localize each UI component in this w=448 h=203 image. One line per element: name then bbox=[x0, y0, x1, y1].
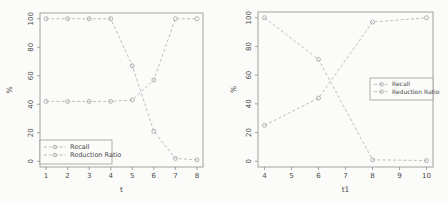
left-chart-panel: 12345678020406080100t%RecallReduction Ra… bbox=[0, 0, 224, 203]
left-chart-svg: 12345678020406080100t%RecallReduction Ra… bbox=[0, 0, 224, 203]
x-tick-label: 5 bbox=[130, 172, 134, 180]
series-marker bbox=[425, 16, 429, 20]
x-tick-label: 7 bbox=[173, 172, 177, 180]
y-tick-label: 20 bbox=[245, 128, 253, 137]
series-marker bbox=[195, 17, 199, 21]
right-chart-panel: 45678910020406080100t1%RecallReduction R… bbox=[224, 0, 448, 203]
series-marker bbox=[316, 96, 320, 100]
y-tick-label: 0 bbox=[27, 159, 35, 163]
y-tick-label: 60 bbox=[245, 71, 253, 80]
y-tick-label: 60 bbox=[27, 71, 35, 80]
y-tick-label: 100 bbox=[245, 11, 253, 24]
x-tick-label: 4 bbox=[108, 172, 113, 180]
legend-label: Reduction Ratio bbox=[70, 151, 121, 159]
y-tick-label: 40 bbox=[27, 100, 35, 109]
series-line bbox=[46, 19, 197, 160]
figure-two-line-plots: 12345678020406080100t%RecallReduction Ra… bbox=[0, 0, 448, 203]
x-tick-label: 8 bbox=[370, 172, 374, 180]
x-axis-title: t bbox=[120, 185, 123, 194]
x-tick-label: 8 bbox=[195, 172, 199, 180]
legend-label: Recall bbox=[392, 80, 410, 87]
series-line bbox=[46, 19, 197, 102]
x-tick-label: 5 bbox=[289, 172, 293, 180]
legend-label: Recall bbox=[70, 143, 90, 151]
x-axis-title: t1 bbox=[342, 185, 350, 194]
y-tick-label: 0 bbox=[245, 159, 253, 163]
x-tick-label: 2 bbox=[65, 172, 69, 180]
x-tick-label: 1 bbox=[44, 172, 48, 180]
y-tick-label: 20 bbox=[27, 128, 35, 137]
y-tick-label: 40 bbox=[245, 99, 253, 108]
series-marker bbox=[262, 123, 266, 127]
y-axis-title: % bbox=[229, 86, 238, 93]
y-tick-label: 80 bbox=[245, 42, 253, 51]
y-tick-label: 100 bbox=[27, 12, 35, 25]
x-tick-label: 7 bbox=[343, 172, 347, 180]
x-tick-label: 9 bbox=[397, 172, 401, 180]
x-tick-label: 6 bbox=[316, 172, 321, 180]
x-tick-label: 4 bbox=[262, 172, 267, 180]
series-marker bbox=[262, 16, 266, 20]
x-tick-label: 6 bbox=[152, 172, 157, 180]
x-tick-label: 10 bbox=[422, 172, 431, 180]
right-chart-svg: 45678910020406080100t1%RecallReduction R… bbox=[224, 0, 448, 203]
y-tick-label: 80 bbox=[27, 43, 35, 52]
y-axis-title: % bbox=[5, 86, 14, 93]
x-tick-label: 3 bbox=[87, 172, 91, 180]
legend-label: Reduction Ratio bbox=[392, 88, 440, 95]
